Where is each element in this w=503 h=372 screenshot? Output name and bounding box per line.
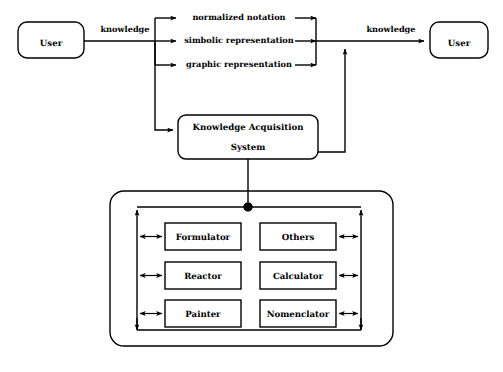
knowledge-in-label: knowledge (100, 24, 149, 34)
module-label-painter: Painter (185, 310, 221, 320)
representation-label-0: normalized notation (192, 12, 285, 22)
knowledge-acquisition-system-node[interactable]: Knowledge Acquisition System (178, 115, 318, 159)
module-label-others: Others (282, 233, 315, 243)
module-node-calculator[interactable]: Calculator (260, 262, 358, 289)
architecture-diagram: User knowledge normalized notation simbo… (0, 0, 503, 372)
module-container (110, 191, 393, 346)
diagram-canvas: User knowledge normalized notation simbo… (0, 0, 503, 372)
representation-label-1: simbolic representation (184, 35, 294, 45)
module-node-formulator[interactable]: Formulator (140, 223, 241, 250)
module-label-nomenclator: Nomenclator (267, 310, 330, 320)
module-label-reactor: Reactor (184, 272, 222, 282)
module-node-reactor[interactable]: Reactor (140, 262, 241, 289)
module-label-formulator: Formulator (176, 233, 231, 243)
module-node-painter[interactable]: Painter (140, 300, 241, 327)
user-left-node[interactable]: User (18, 22, 84, 58)
bus-junction-dot (244, 203, 252, 211)
module-node-nomenclator[interactable]: Nomenclator (260, 300, 358, 327)
edge-input-to-system (155, 41, 173, 130)
system-label-line2: System (231, 143, 266, 153)
knowledge-out-label: knowledge (366, 24, 415, 34)
user-left-label: User (40, 39, 63, 49)
edge-system-to-output (318, 49, 345, 152)
module-node-others[interactable]: Others (260, 223, 358, 250)
system-label-line1: Knowledge Acquisition (193, 123, 305, 133)
user-right-label: User (448, 39, 471, 49)
representation-label-2: graphic representation (186, 59, 292, 69)
module-label-calculator: Calculator (273, 272, 324, 282)
user-right-node[interactable]: User (430, 22, 488, 58)
